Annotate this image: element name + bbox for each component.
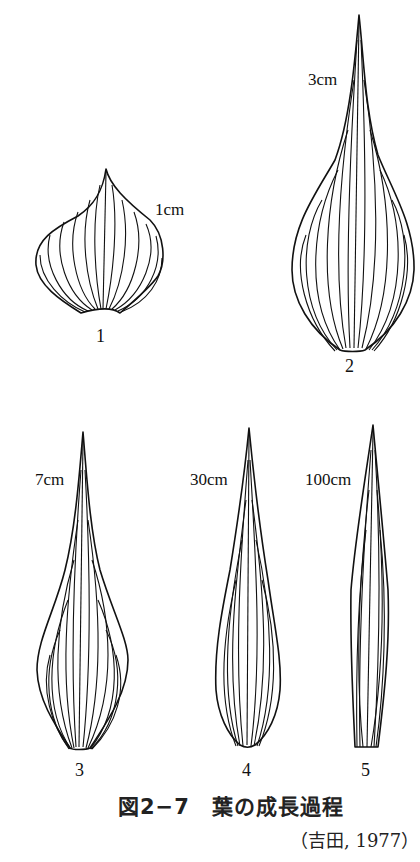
figure-source: （吉田, 1977） <box>290 826 419 852</box>
leaf-5-drawing <box>351 425 389 747</box>
leaf-2-number: 2 <box>345 356 354 377</box>
figure-caption: 図2−7 葉の成長過程 <box>118 790 344 820</box>
leaf-5-number: 5 <box>361 760 370 781</box>
leaf-3-size-label: 7cm <box>35 470 64 490</box>
leaf-1-size-label: 1cm <box>155 200 184 220</box>
leaf-1-number: 1 <box>96 326 105 347</box>
leaf-4-size-label: 30cm <box>190 470 228 490</box>
leaf-2-size-label: 3cm <box>308 70 337 90</box>
leaf-1-drawing <box>36 169 163 313</box>
leaf-5-size-label: 100cm <box>305 470 351 490</box>
leaf-3-number: 3 <box>75 760 84 781</box>
leaf-4-number: 4 <box>242 760 251 781</box>
leaf-illustrations <box>0 0 420 862</box>
leaf-2-drawing <box>292 15 414 352</box>
